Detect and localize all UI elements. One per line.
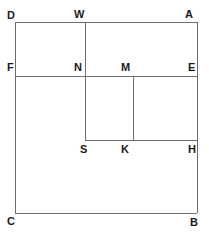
vertex-label-a: A [185,9,193,20]
vertex-label-b: B [190,217,198,228]
vertex-label-d: D [7,10,15,21]
geometry-figure: DWAFNMESKHCB [0,0,209,237]
vertex-label-e: E [188,62,195,73]
vertex-label-f: F [7,62,14,73]
segment-layer [15,22,197,213]
vertex-label-w: W [74,9,84,20]
vertex-label-s: S [80,144,87,155]
vertex-label-n: N [74,62,82,73]
vertex-label-h: H [188,144,196,155]
figure-svg [0,0,209,237]
vertex-label-m: M [121,62,130,73]
vertex-label-k: K [121,144,129,155]
vertex-label-c: C [7,216,15,227]
